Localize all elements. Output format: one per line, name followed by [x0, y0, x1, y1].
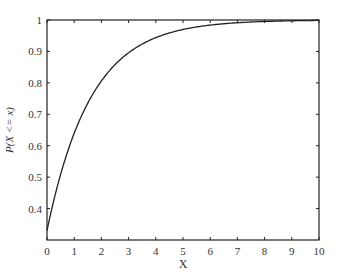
- plot-frame: [47, 20, 319, 240]
- cdf-chart: 0123456789100.40.50.60.70.80.91 X P(X <=…: [0, 0, 338, 280]
- x-tick-label: 2: [99, 245, 105, 257]
- x-tick-label: 3: [126, 245, 132, 257]
- x-tick-label: 5: [180, 245, 186, 257]
- plot-area: 0123456789100.40.50.60.70.80.91: [28, 14, 325, 257]
- y-tick-label: 0.9: [28, 45, 42, 57]
- x-tick-label: 0: [44, 245, 50, 257]
- y-tick-label: 0.5: [28, 171, 42, 183]
- y-tick-label: 0.8: [28, 77, 42, 89]
- x-tick-label: 8: [262, 245, 268, 257]
- x-tick-label: 7: [235, 245, 241, 257]
- y-tick-label: 1: [37, 14, 43, 26]
- y-axis-label: P(X <= x): [3, 107, 16, 154]
- x-tick-label: 6: [207, 245, 213, 257]
- cdf-curve: [47, 20, 319, 230]
- y-tick-label: 0.4: [28, 203, 42, 215]
- x-tick-label: 1: [71, 245, 77, 257]
- y-tick-label: 0.7: [28, 108, 42, 120]
- y-tick-label: 0.6: [28, 140, 42, 152]
- x-axis-label: X: [179, 257, 188, 271]
- x-tick-label: 9: [289, 245, 295, 257]
- x-tick-label: 10: [314, 245, 326, 257]
- x-tick-label: 4: [153, 245, 159, 257]
